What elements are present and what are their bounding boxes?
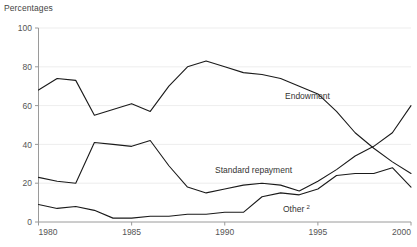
- series-label-other-footnote-marker: 2: [307, 204, 311, 210]
- x-tick-label-1980: 1980: [39, 227, 58, 237]
- series-label-endowment: Endowment: [285, 91, 331, 101]
- data-series-lines: [39, 61, 412, 218]
- gridlines: [39, 28, 412, 183]
- x-tick-label-1995: 1995: [308, 227, 327, 237]
- y-tick-label-100: 100: [18, 23, 32, 33]
- chart-container: Percentages 020406080100 198019851990199…: [0, 0, 417, 247]
- y-tick-label-80: 80: [23, 62, 33, 72]
- series-annotations: EndowmentStandard repaymentOther2: [215, 91, 331, 214]
- chart-axes: [39, 28, 412, 222]
- y-tick-label-60: 60: [23, 101, 33, 111]
- axis-tickmarks: [35, 28, 411, 226]
- series-label-other: Other: [283, 204, 304, 214]
- series-line-other: [39, 168, 412, 218]
- y-tick-label-40: 40: [23, 140, 33, 150]
- series-label-standard-repayment: Standard repayment: [215, 165, 293, 175]
- x-tick-label-1990: 1990: [215, 227, 234, 237]
- series-line-standard-repayment: [39, 106, 412, 193]
- x-tick-label-2000: 2000: [392, 227, 411, 237]
- y-tick-label-20: 20: [23, 178, 33, 188]
- x-axis-tick-labels: 19801985199019952000: [39, 227, 412, 237]
- y-tick-label-0: 0: [27, 217, 32, 227]
- y-axis-tick-labels: 020406080100: [18, 23, 32, 227]
- x-tick-label-1985: 1985: [122, 227, 141, 237]
- line-chart-plot: 020406080100 19801985199019952000 Endowm…: [0, 0, 417, 247]
